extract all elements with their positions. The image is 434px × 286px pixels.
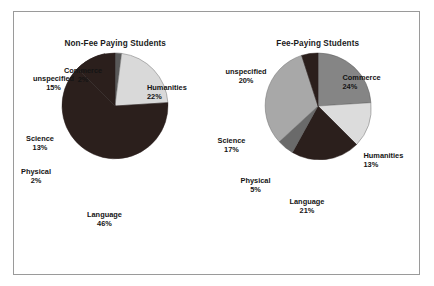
panel-title-non-fee-paying: Non-Fee Paying Students	[14, 39, 217, 48]
label-humanities-fee: Humanities 13%	[364, 151, 404, 170]
label-language-non-fee: Language 46%	[87, 210, 122, 229]
label-unspecified-fee: unspecified 20%	[226, 67, 267, 86]
pie-chart-fee-paying	[264, 52, 372, 160]
label-science-fee: Science 17%	[218, 136, 246, 155]
label-physical-non-fee: Physical 2%	[21, 167, 51, 186]
panel-title-fee-paying: Fee-Paying Students	[217, 39, 420, 48]
label-unspecified-non-fee: unspecified 15%	[33, 74, 74, 93]
label-language-fee: Language 21%	[290, 197, 325, 216]
label-humanities-non-fee: Humanities 22%	[147, 83, 187, 102]
pie-svg-fee-paying	[264, 52, 372, 160]
figure-frame: Non-Fee Paying Students Commerce 2%	[13, 11, 420, 275]
label-physical-fee: Physical 5%	[241, 176, 271, 195]
panel-fee-paying: Fee-Paying Students Commerce 24%	[217, 12, 420, 274]
label-commerce-fee: Commerce 24%	[343, 73, 381, 92]
label-science-non-fee: Science 13%	[26, 134, 54, 153]
panel-non-fee-paying: Non-Fee Paying Students Commerce 2%	[14, 12, 217, 274]
